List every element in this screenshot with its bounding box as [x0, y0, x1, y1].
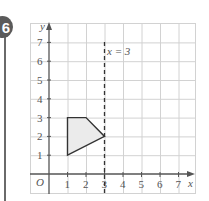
svg-text:7: 7	[37, 36, 43, 48]
coordinate-grid-diagram: 12345671234567 y x O x = 3	[0, 0, 209, 201]
svg-text:5: 5	[37, 74, 43, 86]
svg-text:4: 4	[120, 178, 126, 190]
svg-text:7: 7	[176, 178, 182, 190]
svg-text:4: 4	[37, 93, 43, 105]
y-axis-label: y	[39, 20, 45, 32]
svg-text:1: 1	[37, 149, 43, 161]
origin-label: O	[36, 176, 44, 188]
x-axis-label: x	[187, 177, 193, 189]
svg-text:2: 2	[37, 130, 43, 142]
tick-labels: 12345671234567	[37, 36, 182, 190]
svg-text:5: 5	[139, 178, 145, 190]
mirror-line-label: x = 3	[106, 45, 131, 57]
svg-text:3: 3	[37, 112, 43, 124]
svg-text:6: 6	[157, 178, 163, 190]
svg-text:1: 1	[65, 178, 71, 190]
svg-text:2: 2	[83, 178, 89, 190]
svg-text:6: 6	[37, 55, 43, 67]
axis-ticks	[47, 42, 179, 177]
